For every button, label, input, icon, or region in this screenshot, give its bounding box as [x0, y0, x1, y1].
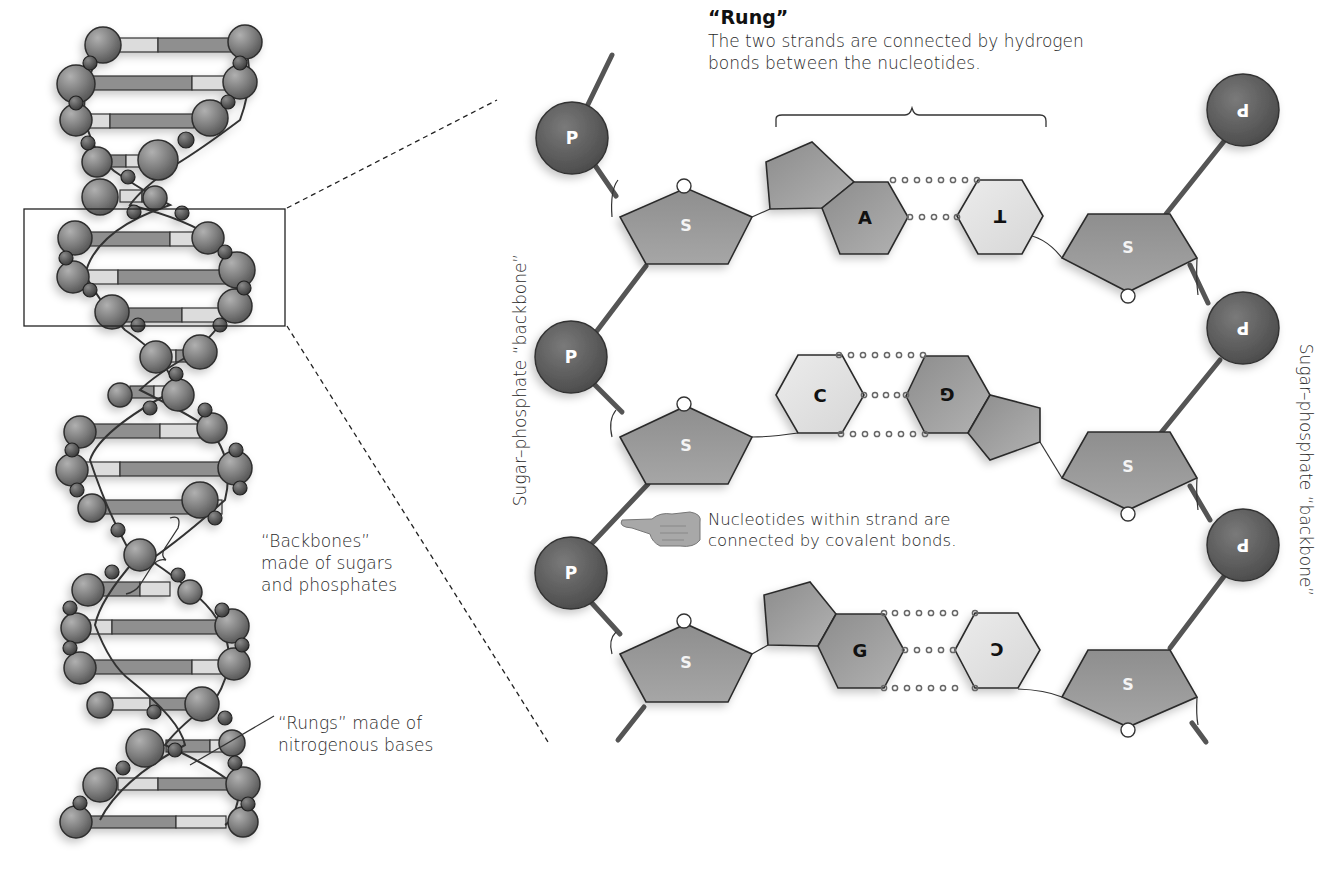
sugar-label: S	[1122, 238, 1134, 257]
phosphate-label: P	[565, 347, 577, 367]
base-label-g: G	[853, 640, 868, 661]
phosphate-label: P	[566, 128, 578, 148]
base-label-g: G	[940, 384, 955, 405]
base-label-t: T	[993, 206, 1006, 227]
sugar-letters: S S S S S S	[680, 216, 1134, 694]
pointing-hand-icon	[621, 512, 700, 546]
covalent-bonds-note: Nucleotides within strand are connected …	[708, 509, 1028, 551]
phosphate-label: P	[565, 563, 577, 583]
backbones-label: “Backbones” made of sugars and phosphate…	[261, 530, 421, 596]
backbone-label-right: Sugar–phosphate “backbone”	[1296, 344, 1316, 596]
sugar-label: S	[680, 216, 692, 235]
dna-diagram: P P P P P P S S S S S S A T C G G C	[0, 0, 1332, 873]
base-label-a: A	[858, 207, 872, 228]
double-helix-illustration	[56, 25, 262, 838]
rungs-label: “Rungs” made of nitrogenous bases	[278, 712, 438, 756]
base-label-c: C	[990, 639, 1003, 660]
rung-title: “Rung”	[708, 6, 788, 28]
rung-brace	[776, 108, 1046, 127]
zoom-line-top	[287, 100, 497, 208]
phosphate-label: P	[1237, 100, 1249, 120]
base-pair-1	[766, 142, 1043, 254]
sugar-label: S	[1122, 457, 1134, 476]
base-label-c: C	[813, 385, 826, 406]
phosphate-label: P	[1237, 318, 1249, 338]
sugar-label: S	[1122, 675, 1134, 694]
sugar-label: S	[680, 653, 692, 672]
rung-description: The two strands are connected by hydroge…	[708, 30, 1128, 74]
base-pair-2	[776, 355, 1040, 460]
phosphate-label: P	[1237, 535, 1249, 555]
base-pair-3	[764, 582, 1040, 688]
backbone-label-left: Sugar–phosphate “backbone”	[510, 254, 530, 506]
sugar-label: S	[680, 436, 692, 455]
